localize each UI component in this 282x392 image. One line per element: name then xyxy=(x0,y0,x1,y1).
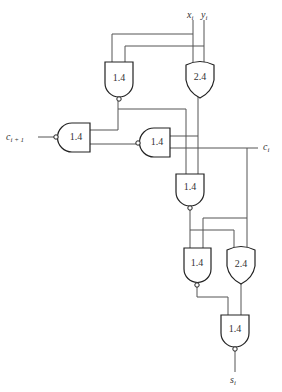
gate-delay-label: 2.4 xyxy=(235,258,248,269)
svg-text:si: si xyxy=(230,374,236,387)
signal-label-s: si xyxy=(230,374,236,387)
signal-label-c-in: ci xyxy=(263,141,269,154)
signal-label-c-out: ci + 1 xyxy=(6,131,24,144)
gate-delay-label: 2.4 xyxy=(194,71,207,82)
nand-gate-g4: 1.4 xyxy=(136,128,170,157)
gate-delay-label: 1.4 xyxy=(184,181,197,192)
signal-label-x: xi xyxy=(186,9,193,22)
nand-gate-g1: 1.4 xyxy=(105,62,133,101)
svg-text:xi: xi xyxy=(186,9,193,22)
gate-delay-label: 1.4 xyxy=(113,72,126,83)
nand-gate-g3: 1.4 xyxy=(54,123,90,152)
gate-delay-label: 1.4 xyxy=(151,136,164,147)
svg-text:ci: ci xyxy=(263,141,269,154)
nand-gate-g6: 1.4 xyxy=(184,248,211,287)
nand-gate-g5: 1.4 xyxy=(176,174,204,210)
svg-text:ci + 1: ci + 1 xyxy=(6,131,24,144)
or-gate-g2: 2.4 xyxy=(186,62,214,99)
gate-delay-label: 1.4 xyxy=(70,131,83,142)
gate-delay-label: 1.4 xyxy=(229,323,242,334)
logic-circuit-diagram: 1.4 2.4 1.4 1.4 1.4 1.4 2.4 1.4 xyxy=(0,0,282,392)
or-gate-g7: 2.4 xyxy=(227,247,255,285)
gate-delay-label: 1.4 xyxy=(191,257,204,268)
nand-gate-g8: 1.4 xyxy=(221,315,249,351)
